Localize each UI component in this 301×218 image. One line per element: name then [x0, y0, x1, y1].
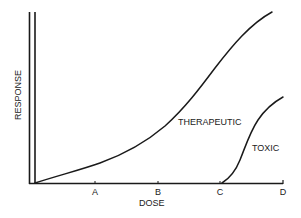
- therapeutic-curve: [35, 12, 272, 183]
- y-axis-label: RESPONSE: [14, 70, 23, 120]
- tick-label-b: B: [155, 188, 161, 197]
- toxic-curve: [222, 97, 283, 183]
- toxic-label: TOXIC: [252, 144, 279, 153]
- x-axis-label: DOSE: [139, 199, 165, 208]
- tick-label-c: C: [217, 188, 224, 197]
- tick-label-d: D: [280, 188, 287, 197]
- tick-label-a: A: [92, 188, 98, 197]
- therapeutic-label: THERAPEUTIC: [178, 118, 242, 127]
- dose-response-diagram: [0, 0, 301, 218]
